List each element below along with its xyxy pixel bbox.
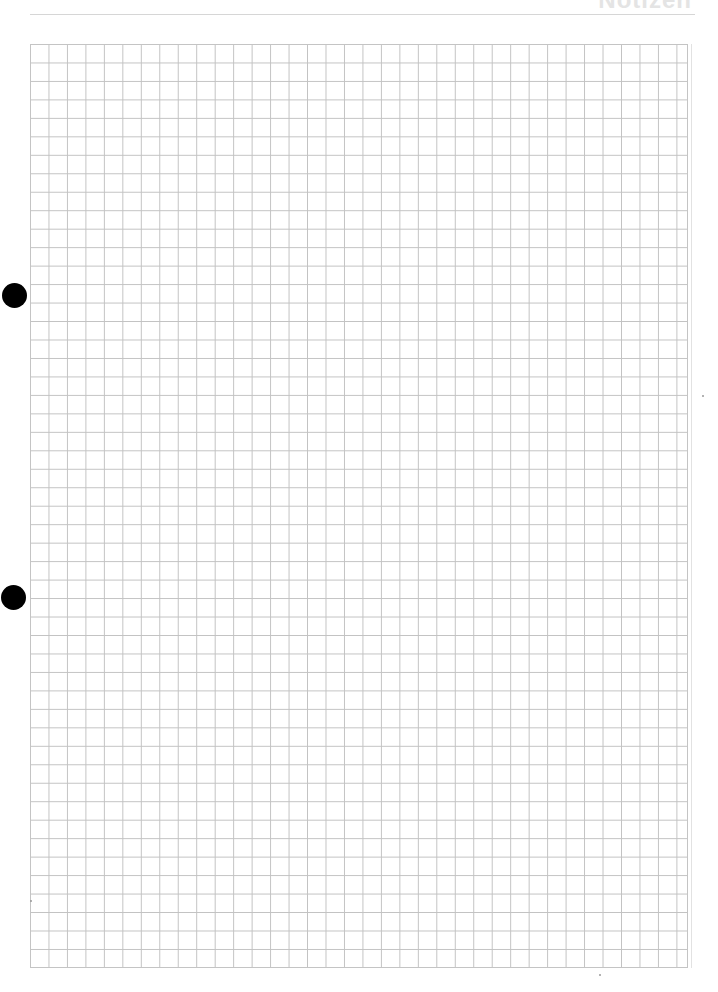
punch-hole-bottom [1,585,26,610]
paper-speck [30,900,32,902]
page-title: Notizen [598,0,692,12]
grid-paper-area [30,44,688,968]
grid-edge-line [691,44,692,968]
paper-speck [702,395,704,397]
paper-speck [599,974,601,976]
punch-hole-top [2,283,27,308]
header-rule [30,14,695,15]
